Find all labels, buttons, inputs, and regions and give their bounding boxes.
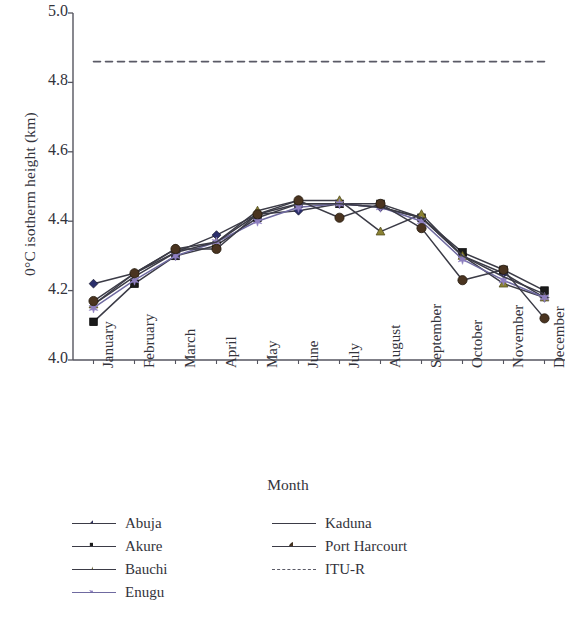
- legend-line-icon: [272, 569, 316, 570]
- x-tick-label-august: August: [387, 325, 404, 368]
- diamond-marker: [90, 519, 93, 522]
- legend-label: Port Harcourt: [325, 538, 407, 555]
- x-tick-label-january: January: [100, 321, 117, 368]
- circle-marker: [130, 269, 139, 278]
- y-tick-label: 5.0: [26, 2, 68, 20]
- legend-line-icon: [272, 523, 316, 525]
- x-tick-label-december: December: [551, 306, 568, 368]
- series-kaduna: [94, 204, 545, 305]
- legend-label: Abuja: [125, 515, 162, 532]
- legend-label: Kaduna: [325, 515, 372, 532]
- circle-marker: [294, 196, 303, 205]
- legend-marker-circle-icon: [284, 537, 293, 546]
- legend-item-abuja[interactable]: Abuja: [72, 512, 168, 535]
- legend-swatch-abuja-icon: [72, 514, 116, 534]
- circle-marker: [289, 542, 293, 546]
- legend-swatch-bauchi-icon: [72, 560, 116, 580]
- legend-line-icon: [72, 592, 116, 594]
- x-tick-label-february: February: [141, 314, 158, 368]
- legend-item-itu-r[interactable]: ITU-R: [272, 558, 407, 581]
- legend-marker-diamond-icon: [84, 514, 93, 523]
- x-tick-label-october: October: [469, 320, 486, 368]
- circle-marker: [376, 199, 385, 208]
- series-line-enugu: [94, 204, 545, 308]
- circle-marker: [335, 213, 344, 222]
- data-point-square: [90, 318, 98, 326]
- circle-marker: [171, 244, 180, 253]
- isotherm-height-chart: 0°C isotherm height (km) 5.04.84.64.44.2…: [0, 0, 576, 621]
- legend-marker-star-icon: [84, 583, 93, 592]
- legend-item-bauchi[interactable]: Bauchi: [72, 558, 168, 581]
- data-point-diamond: [90, 519, 93, 522]
- series-line-abuja: [94, 204, 545, 298]
- legend-label: ITU-R: [325, 561, 365, 578]
- legend-swatch-port-harcourt-icon: [272, 537, 316, 557]
- data-point-circle: [253, 210, 262, 219]
- data-point-circle: [130, 269, 139, 278]
- data-point-circle: [417, 224, 426, 233]
- series-abuja: [89, 199, 549, 301]
- x-tick-label-september: September: [428, 304, 445, 368]
- circle-marker: [540, 314, 549, 323]
- data-point-circle: [289, 542, 293, 546]
- legend-marker-square-icon: [84, 537, 93, 546]
- data-point-circle: [294, 196, 303, 205]
- x-tick-label-march: March: [182, 329, 199, 368]
- x-axis-title: Month: [0, 476, 576, 494]
- x-tick-label-may: May: [264, 341, 281, 369]
- legend-line-icon: [72, 569, 116, 571]
- diamond-marker: [89, 279, 98, 288]
- legend-label: Enugu: [125, 584, 164, 601]
- x-tick-label-july: July: [346, 343, 363, 368]
- legend-item-enugu[interactable]: Enugu: [72, 581, 168, 604]
- y-tick-label: 4.2: [26, 280, 68, 298]
- series-line-kaduna: [94, 204, 545, 305]
- y-tick-label: 4.6: [26, 141, 68, 159]
- data-point-diamond: [89, 279, 98, 288]
- circle-marker: [89, 296, 98, 305]
- legend-item-kaduna[interactable]: Kaduna: [272, 512, 407, 535]
- data-point-triangle: [90, 565, 93, 569]
- x-tick-label-june: June: [305, 341, 322, 369]
- series-enugu: [89, 199, 549, 313]
- data-point-square: [90, 543, 93, 546]
- circle-marker: [499, 265, 508, 274]
- data-point-circle: [89, 296, 98, 305]
- legend-line-icon: [72, 523, 116, 525]
- circle-marker: [458, 276, 467, 285]
- data-point-circle: [212, 244, 221, 253]
- legend-label: Akure: [125, 538, 163, 555]
- star-marker: [90, 588, 93, 592]
- series-line-bauchi: [94, 200, 545, 304]
- legend-item-akure[interactable]: Akure: [72, 535, 168, 558]
- data-point-circle: [335, 213, 344, 222]
- legend-swatch-itu-r-icon: [272, 560, 316, 580]
- legend-line-icon: [72, 546, 116, 548]
- data-point-circle: [376, 199, 385, 208]
- data-point-circle: [499, 265, 508, 274]
- data-point-circle: [540, 314, 549, 323]
- legend-column-2: KadunaPort HarcourtITU-R: [272, 512, 407, 581]
- legend-swatch-akure-icon: [72, 537, 116, 557]
- legend-swatch-kaduna-icon: [272, 514, 316, 534]
- series-bauchi: [89, 196, 549, 308]
- data-point-star: [90, 588, 93, 592]
- data-point-circle: [458, 276, 467, 285]
- legend-label: Bauchi: [125, 561, 168, 578]
- square-marker: [90, 318, 98, 326]
- y-tick-label: 4.8: [26, 71, 68, 89]
- circle-marker: [253, 210, 262, 219]
- legend-marker-triangle-icon: [84, 560, 93, 569]
- x-tick-label-november: November: [510, 305, 527, 368]
- circle-marker: [417, 224, 426, 233]
- legend-line-icon: [272, 546, 316, 548]
- legend-item-port-harcourt[interactable]: Port Harcourt: [272, 535, 407, 558]
- circle-marker: [212, 244, 221, 253]
- x-tick-label-april: April: [223, 336, 240, 368]
- square-marker: [90, 543, 93, 546]
- legend-column-1: AbujaAkureBauchiEnugu: [72, 512, 168, 604]
- y-tick-label: 4.0: [26, 349, 68, 367]
- y-tick-label: 4.4: [26, 210, 68, 228]
- y-axis-tick-labels: 5.04.84.64.44.24.0: [14, 0, 68, 621]
- legend-swatch-enugu-icon: [72, 583, 116, 603]
